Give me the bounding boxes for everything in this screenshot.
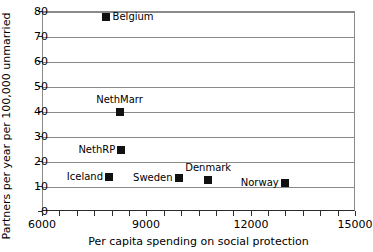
x-axis-tick xyxy=(303,211,304,216)
y-axis-tick-label: 60 xyxy=(34,56,48,67)
x-axis-tick xyxy=(268,211,269,216)
gridline xyxy=(43,137,354,138)
x-axis-title: Per capita spending on social protection xyxy=(42,235,355,248)
x-axis-tick xyxy=(77,211,78,216)
x-axis-tick xyxy=(216,211,217,216)
y-axis-tick-label: 20 xyxy=(34,156,48,167)
x-axis-tick xyxy=(285,211,286,216)
data-point-label: Denmark xyxy=(185,163,231,173)
x-axis-tick xyxy=(199,211,200,216)
x-axis-tick xyxy=(129,211,130,216)
y-axis-tick-label: 80 xyxy=(34,6,48,17)
gridline xyxy=(43,12,354,13)
data-point-label: Norway xyxy=(241,178,279,188)
y-axis-title: Partners per year per 100,000 unmarried xyxy=(0,0,14,252)
gridline xyxy=(43,62,354,63)
data-point-label: NethMarr xyxy=(96,95,143,105)
gridline xyxy=(43,187,354,188)
x-axis-tick-label: 9000 xyxy=(132,219,160,231)
x-axis-tick-label: 6000 xyxy=(28,219,56,231)
x-axis-tick xyxy=(181,211,182,216)
x-axis-tick xyxy=(233,211,234,216)
x-axis-tick xyxy=(320,211,321,216)
x-axis-tick xyxy=(112,211,113,216)
data-point xyxy=(105,173,113,181)
data-point xyxy=(102,13,110,21)
y-axis-tick-label: 50 xyxy=(34,81,48,92)
data-point xyxy=(281,179,289,187)
x-axis-tick-label: 12000 xyxy=(234,219,269,231)
x-axis-tick xyxy=(146,211,147,216)
x-axis-tick xyxy=(338,211,339,216)
data-point xyxy=(175,174,183,182)
data-point-label: NethRP xyxy=(78,145,115,155)
x-axis-tick xyxy=(59,211,60,216)
data-point xyxy=(204,176,212,184)
data-point-label: Iceland xyxy=(67,172,103,182)
gridline xyxy=(43,37,354,38)
x-axis-tick xyxy=(164,211,165,216)
y-axis-tick-label: 10 xyxy=(34,181,48,192)
x-axis-tick-label: 15000 xyxy=(338,219,373,231)
gridline xyxy=(43,87,354,88)
x-axis-tick xyxy=(251,211,252,216)
scatter-chart: BelgiumNethMarrNethRPIcelandSwedenDenmar… xyxy=(0,0,373,252)
x-axis-tick xyxy=(94,211,95,216)
data-point-label: Sweden xyxy=(133,173,173,183)
y-axis-tick-label: 70 xyxy=(34,31,48,42)
data-point-label: Belgium xyxy=(113,12,154,22)
data-point xyxy=(117,146,125,154)
x-axis-tick xyxy=(42,211,43,216)
data-point xyxy=(116,108,124,116)
y-axis-tick-label: 40 xyxy=(34,106,48,117)
plot-area: BelgiumNethMarrNethRPIcelandSwedenDenmar… xyxy=(42,11,355,211)
gridline xyxy=(43,112,354,113)
x-axis-tick xyxy=(355,211,356,216)
y-axis-tick-label: 30 xyxy=(34,131,48,142)
